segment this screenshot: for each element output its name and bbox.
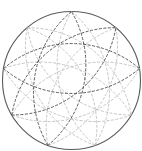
light-lens <box>4 62 132 122</box>
rosette-diagram <box>0 0 142 151</box>
outer-circle <box>3 12 141 150</box>
dark-lens <box>12 28 116 115</box>
dark-lens <box>34 12 86 146</box>
dark-lens <box>4 44 140 94</box>
lens-group <box>4 12 140 146</box>
light-lens <box>57 12 109 146</box>
light-lens <box>12 62 140 122</box>
